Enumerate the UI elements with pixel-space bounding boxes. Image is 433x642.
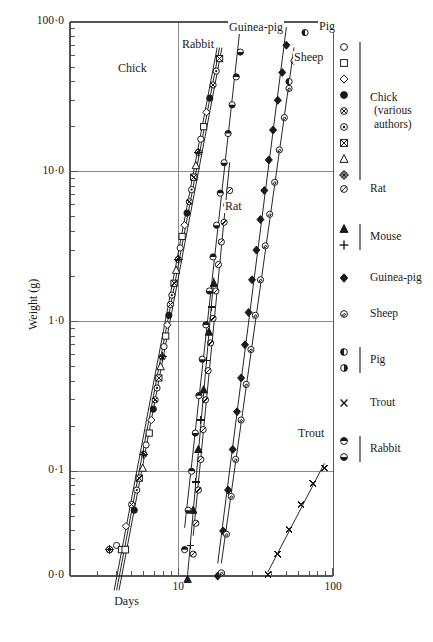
legend-label-line: Chick <box>370 91 412 105</box>
series-mouse <box>184 277 218 582</box>
legend-symbol-chick-5 <box>336 120 352 134</box>
legend-label-pig: Pig <box>370 353 385 366</box>
y-tick-label-3: 0·1 <box>8 463 64 475</box>
legend: Chick(variousauthors)RatMouseGuinea-pigS… <box>336 22 433 422</box>
legend-symbol-chick-4 <box>336 104 352 118</box>
growth-chart-figure: 100·010·01·00·10·0 10100 Weight (g) Days… <box>0 0 433 642</box>
data-layer <box>105 25 328 590</box>
axes-layer <box>70 22 333 576</box>
curve-label-sheep: Sheep <box>293 51 324 64</box>
legend-symbol-trout-0 <box>336 396 352 410</box>
legend-symbol-rabbit-0 <box>336 434 352 448</box>
legend-label-line: Guinea-pig <box>370 271 422 284</box>
x-axis-title: Days <box>0 594 343 609</box>
x-tick-label-1: 100 <box>308 580 358 592</box>
curve-label-chick: Chick <box>117 62 148 75</box>
series-trout <box>265 463 328 577</box>
legend-symbol-rabbit-1 <box>336 450 352 464</box>
curve-label-guinea-pig: Guinea-pig <box>228 21 284 34</box>
legend-symbol-sheep-0 <box>336 307 352 321</box>
legend-symbol-guinea-pig-0 <box>336 271 352 285</box>
series-chick-various-authors- <box>113 48 222 591</box>
legend-symbol-chick-3 <box>336 88 352 102</box>
legend-symbol-chick-1 <box>336 56 352 70</box>
legend-symbol-chick-8 <box>336 168 352 182</box>
legend-label-line: Rabbit <box>370 442 401 455</box>
legend-symbol-pig-1 <box>336 361 352 375</box>
curve-label-pig: Pig <box>318 20 336 33</box>
legend-symbol-mouse-0 <box>336 222 352 236</box>
legend-symbol-chick-2 <box>336 72 352 86</box>
legend-symbol-chick-7 <box>336 152 352 166</box>
series-guinea-pig <box>214 27 290 580</box>
curve-label-trout: Trout <box>297 427 325 440</box>
legend-label-rabbit: Rabbit <box>370 442 401 455</box>
legend-label-line: Mouse <box>370 230 401 243</box>
x-tick-label-0: 10 <box>153 580 203 592</box>
legend-label-line: Sheep <box>370 307 398 320</box>
legend-brace-rabbit <box>358 436 368 464</box>
curve-label-rat: Rat <box>224 200 243 213</box>
legend-symbol-mouse-1 <box>336 238 352 252</box>
legend-label-line: Trout <box>370 396 395 409</box>
legend-label-line: (various <box>370 104 412 118</box>
y-axis-title: Weight (g) <box>26 279 41 330</box>
legend-symbol-chick-6 <box>336 136 352 150</box>
legend-symbol-rat-0 <box>336 182 352 196</box>
series-sheep <box>218 48 297 576</box>
legend-symbol-chick-0 <box>336 40 352 54</box>
legend-symbol-pig-0 <box>336 345 352 359</box>
curve-label-rabbit: Rabbit <box>181 38 215 51</box>
legend-brace-chick <box>358 42 368 182</box>
legend-label-line: Pig <box>370 353 385 366</box>
y-tick-label-1: 10·0 <box>8 164 64 176</box>
legend-label-guinea-pig: Guinea-pig <box>370 271 422 284</box>
y-tick-label-4: 0·0 <box>8 568 64 580</box>
grid-layer <box>70 22 333 576</box>
legend-label-mouse: Mouse <box>370 230 401 243</box>
legend-label-rat: Rat <box>370 182 386 195</box>
y-tick-label-0: 100·0 <box>8 14 64 26</box>
legend-label-sheep: Sheep <box>370 307 398 320</box>
legend-label-line: authors) <box>370 118 412 132</box>
legend-label-line: Rat <box>370 182 386 195</box>
legend-label-chick: Chick(variousauthors) <box>370 91 412 132</box>
legend-brace-mouse <box>358 224 368 252</box>
legend-label-trout: Trout <box>370 396 395 409</box>
legend-brace-pig <box>358 347 368 375</box>
